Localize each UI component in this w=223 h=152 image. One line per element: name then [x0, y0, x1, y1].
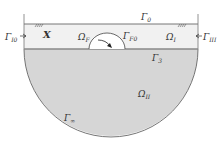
region-omega-ii: [24, 49, 198, 136]
label-gamma-iii: ΓIII: [202, 32, 217, 43]
domain-diagram: Γ0 ΓI0 ΓIII X ΩF ΓF0 ΩI Γ3 ΩII Γ∞: [0, 0, 223, 152]
label-gamma-0: Γ0: [140, 12, 151, 23]
label-point-x: X: [42, 29, 52, 40]
label-gamma-i0: ΓI0: [4, 32, 18, 43]
